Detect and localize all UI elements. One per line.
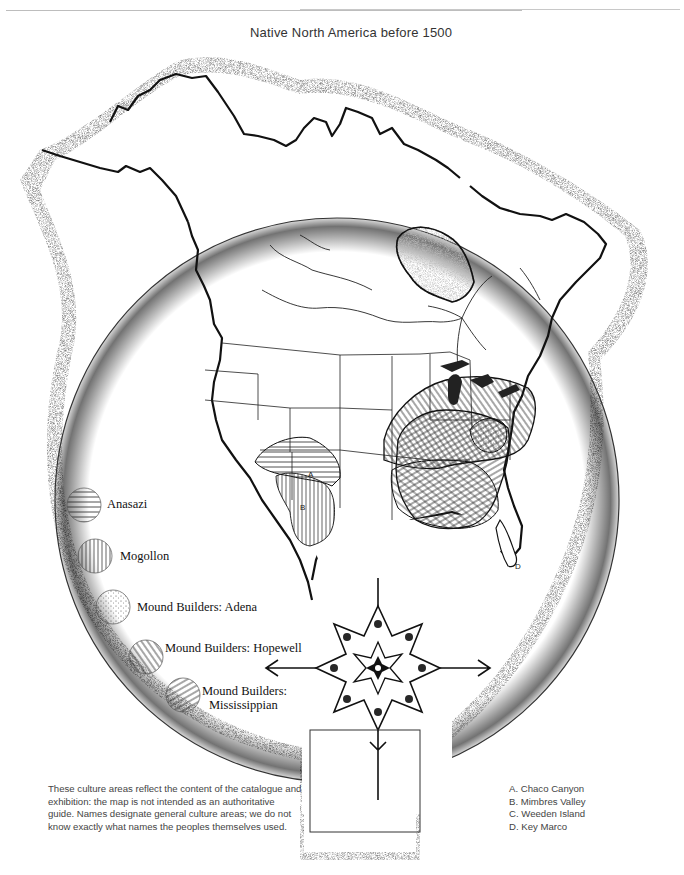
- site-key-item: D. Key Marco: [509, 821, 586, 834]
- site-key-item: A. Chaco Canyon: [509, 783, 586, 796]
- site-key-item: B. Mimbres Valley: [509, 796, 586, 809]
- legend-mississippian-line1: Mound Builders:: [202, 684, 287, 698]
- disclaimer-note: These culture areas reflect the content …: [48, 783, 303, 833]
- site-key: A. Chaco Canyon B. Mimbres Valley C. Wee…: [509, 783, 586, 833]
- site-marker-d: D: [515, 562, 521, 571]
- legend-adena: Mound Builders: Adena: [137, 600, 257, 614]
- legend-anasazi: Anasazi: [107, 497, 147, 511]
- site-marker-b: B: [300, 503, 305, 512]
- site-key-item: C. Weeden Island: [509, 808, 586, 821]
- site-marker-a: A: [308, 470, 313, 479]
- legend-mogollon: Mogollon: [120, 549, 169, 563]
- north-america-map: [0, 0, 684, 875]
- legend-mississippian-line2: Mississippian: [209, 698, 278, 712]
- legend-hopewell: Mound Builders: Hopewell: [165, 641, 302, 655]
